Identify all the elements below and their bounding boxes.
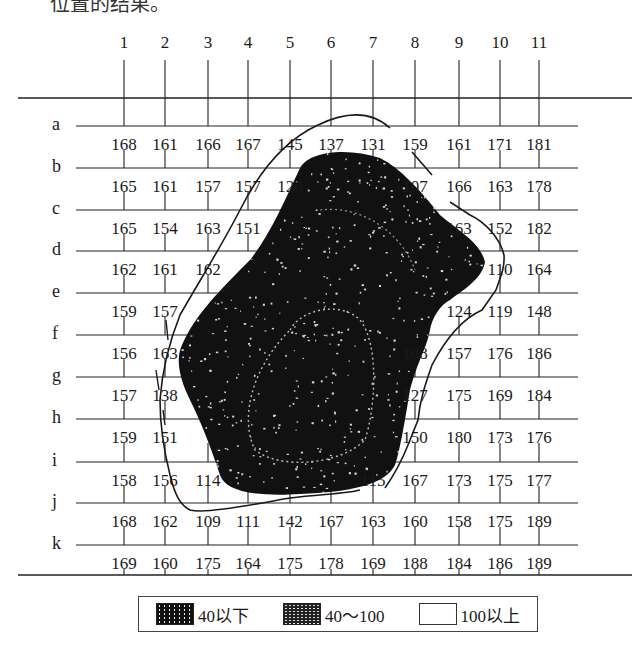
speckle [329, 248, 330, 250]
speckle [253, 306, 254, 307]
speckle [390, 211, 391, 212]
speckle [297, 476, 299, 477]
cell-value-i3: 114 [196, 472, 221, 489]
speckle [385, 205, 387, 207]
speckle [481, 265, 483, 266]
speckle [234, 308, 236, 309]
speckle [344, 246, 346, 247]
speckle [279, 313, 280, 314]
speckle [320, 449, 321, 451]
speckle [308, 190, 310, 192]
speckle [326, 398, 328, 399]
cell-value-a11: 181 [526, 136, 552, 153]
speckle [271, 477, 273, 478]
cell-value-g2: 138 [152, 387, 178, 404]
cell-value-k10: 186 [487, 555, 513, 572]
speckle [412, 250, 413, 251]
speckle [324, 335, 326, 336]
speckle [407, 252, 408, 254]
speckle [296, 380, 298, 381]
speckle [405, 221, 406, 223]
speckle [369, 184, 370, 185]
speckle [395, 436, 397, 437]
cell-value-g9: 175 [446, 387, 472, 404]
speckle [367, 182, 369, 184]
row-label-i: i [52, 451, 57, 469]
cell-value-e11: 148 [526, 303, 552, 320]
speckle [255, 448, 256, 449]
speckle [237, 482, 238, 484]
speckle [417, 336, 419, 338]
speckle [295, 333, 297, 334]
speckle [240, 311, 241, 312]
cell-value-f1: 156 [111, 345, 137, 362]
speckle [331, 169, 333, 170]
speckle [308, 228, 310, 230]
speckle [218, 450, 220, 451]
speckle [348, 375, 349, 376]
speckle [236, 477, 238, 478]
speckle [401, 254, 403, 256]
speckle [326, 187, 328, 189]
cell-value-j6: 167 [318, 513, 344, 530]
speckle [360, 292, 361, 294]
speckle [336, 353, 338, 354]
speckle [350, 268, 352, 270]
cell-value-k7: 169 [360, 555, 386, 572]
speckle [232, 425, 234, 427]
speckle [387, 399, 389, 400]
cell-value-a7: 131 [360, 136, 386, 153]
row-label-k: k [52, 534, 61, 552]
cell-value-i8: 167 [402, 472, 428, 489]
speckle [437, 246, 438, 247]
speckle [229, 469, 231, 471]
speckle [311, 468, 312, 469]
speckle [337, 462, 339, 463]
cell-value-k2: 160 [152, 555, 178, 572]
speckle [374, 376, 375, 378]
speckle [401, 260, 402, 262]
speckle [396, 391, 398, 393]
speckle [312, 422, 314, 424]
speckle [218, 318, 220, 319]
speckle [325, 306, 326, 307]
speckle [359, 162, 361, 164]
row-label-a: a [52, 115, 60, 133]
speckle [182, 349, 184, 351]
legend-label: 40～100 [325, 602, 385, 627]
speckle [326, 488, 328, 489]
speckle [413, 271, 414, 272]
speckle [347, 181, 349, 182]
speckle [386, 208, 387, 210]
speckle [381, 176, 383, 177]
speckle [249, 476, 251, 477]
cell-value-a4: 167 [235, 136, 261, 153]
cell-value-i2: 156 [152, 472, 178, 489]
speckle [248, 343, 250, 345]
speckle [383, 163, 385, 164]
cell-value-b4: 157 [235, 178, 261, 195]
cell-value-j8: 160 [402, 513, 428, 530]
cell-value-d11: 164 [526, 261, 552, 278]
speckle [182, 357, 184, 358]
speckle [325, 376, 327, 377]
speckle [378, 227, 380, 229]
speckle [249, 356, 250, 358]
speckle [200, 360, 202, 362]
speckle [421, 197, 422, 198]
speckle [249, 297, 251, 299]
speckle [295, 468, 297, 470]
speckle [296, 430, 297, 431]
speckle [270, 495, 271, 496]
speckle [329, 425, 331, 427]
speckle [300, 458, 302, 459]
speckle [311, 392, 313, 393]
cell-value-c3: 163 [195, 220, 221, 237]
cell-value-b1: 165 [111, 178, 137, 195]
speckle [364, 289, 366, 291]
speckle [411, 269, 413, 270]
speckle [324, 307, 325, 309]
speckle [407, 210, 409, 211]
speckle [341, 332, 343, 333]
speckle [276, 259, 278, 261]
